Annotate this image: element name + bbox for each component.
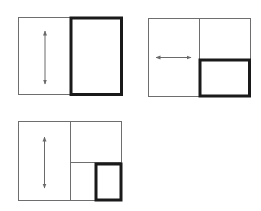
layout-1-active-pane [71, 18, 122, 95]
layout-2-diagram [149, 19, 251, 97]
layout-diagram-canvas [0, 0, 261, 211]
layout-3-diagram [19, 122, 122, 201]
layout-3-active-pane [96, 164, 121, 200]
layout-2-active-pane [200, 60, 250, 96]
layout-1-diagram [19, 18, 122, 95]
